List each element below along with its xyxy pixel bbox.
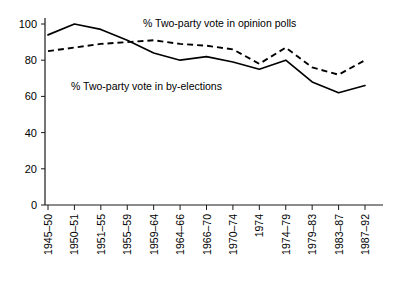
by-elections-label: % Two-party vote in by-elections <box>71 80 222 92</box>
x-tick-label: 1983–87 <box>333 214 345 255</box>
y-tick-label: 100 <box>19 18 37 30</box>
y-tick-label: 0 <box>31 199 37 211</box>
y-tick-label: 40 <box>25 127 37 139</box>
x-tick-label: 1966–70 <box>201 214 213 255</box>
series-annotations: % Two-party vote in opinion polls% Two-p… <box>71 17 296 92</box>
x-tick-label: 1945–50 <box>42 214 54 255</box>
y-tick-label: 80 <box>25 54 37 66</box>
opinion-polls-label: % Two-party vote in opinion polls <box>143 17 296 29</box>
y-axis: 020406080100 <box>19 18 45 211</box>
x-tick-label: 1970–74 <box>227 214 239 255</box>
y-tick-label: 60 <box>25 90 37 102</box>
line-chart: 020406080100 1945–501950–511951–551955–5… <box>0 0 407 286</box>
x-tick-label: 1964–66 <box>174 214 186 255</box>
x-tick-label: 1955–59 <box>121 214 133 255</box>
x-tick-label: 1974 <box>253 214 265 238</box>
x-tick-label: 1951–55 <box>95 214 107 255</box>
x-tick-label: 1950–51 <box>68 214 80 255</box>
series-line-opinion-polls <box>48 40 365 74</box>
x-tick-label: 1979–83 <box>306 214 318 255</box>
x-axis: 1945–501950–511951–551955–591959–641964–… <box>42 205 383 255</box>
y-tick-label: 20 <box>25 163 37 175</box>
x-tick-label: 1959–64 <box>148 214 160 255</box>
x-tick-label: 1987–92 <box>359 214 371 255</box>
chart-container: 020406080100 1945–501950–511951–551955–5… <box>0 0 407 286</box>
x-tick-label: 1974–79 <box>280 214 292 255</box>
